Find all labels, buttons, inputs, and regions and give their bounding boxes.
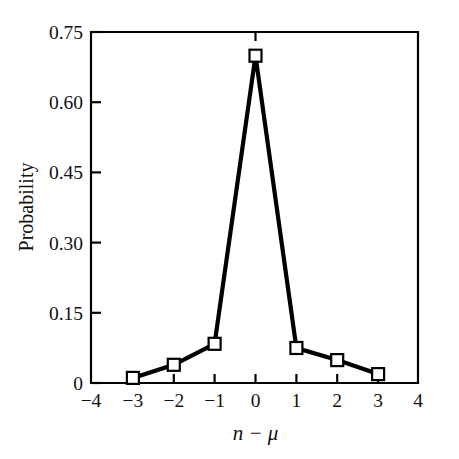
data-point-marker	[250, 50, 262, 62]
y-axis-title: Probability	[15, 163, 38, 252]
data-point-markers	[127, 50, 384, 384]
data-point-marker	[372, 368, 384, 380]
chart-figure: 0 0.15 0.30 0.45 0.60 0.75 −4 −3 −2 −1 0…	[0, 0, 459, 459]
x-tick-label-4: 0	[251, 390, 261, 411]
x-tick-label-0: −4	[81, 390, 102, 411]
x-tick-label-5: 1	[292, 390, 302, 411]
data-point-marker	[127, 372, 139, 384]
data-series-probability	[133, 56, 378, 378]
x-axis-ticks	[133, 32, 378, 383]
x-tick-label-2: −2	[163, 390, 184, 411]
series-line	[133, 56, 378, 378]
y-tick-label-1: 0.15	[49, 303, 83, 324]
y-axis-tick-labels: 0 0.15 0.30 0.45 0.60 0.75	[49, 22, 83, 394]
y-tick-label-3: 0.45	[49, 162, 83, 183]
data-point-marker	[331, 354, 343, 366]
x-axis-title: n − μ	[233, 421, 279, 445]
x-tick-label-1: −3	[123, 390, 144, 411]
x-tick-label-6: 2	[332, 390, 342, 411]
data-point-marker	[168, 359, 180, 371]
axes-frame	[91, 32, 418, 383]
y-tick-label-5: 0.75	[49, 22, 83, 43]
probability-line-chart: 0 0.15 0.30 0.45 0.60 0.75 −4 −3 −2 −1 0…	[0, 0, 459, 459]
data-point-marker	[209, 338, 221, 350]
plot-border	[91, 32, 418, 383]
y-tick-label-2: 0.30	[49, 233, 83, 254]
x-tick-label-3: −1	[204, 390, 225, 411]
y-axis-ticks	[91, 32, 101, 383]
data-point-marker	[290, 342, 302, 354]
x-tick-label-7: 3	[373, 390, 383, 411]
x-axis-tick-labels: −4 −3 −2 −1 0 1 2 3 4	[81, 390, 424, 411]
y-tick-label-4: 0.60	[49, 92, 83, 113]
x-tick-label-8: 4	[413, 390, 423, 411]
